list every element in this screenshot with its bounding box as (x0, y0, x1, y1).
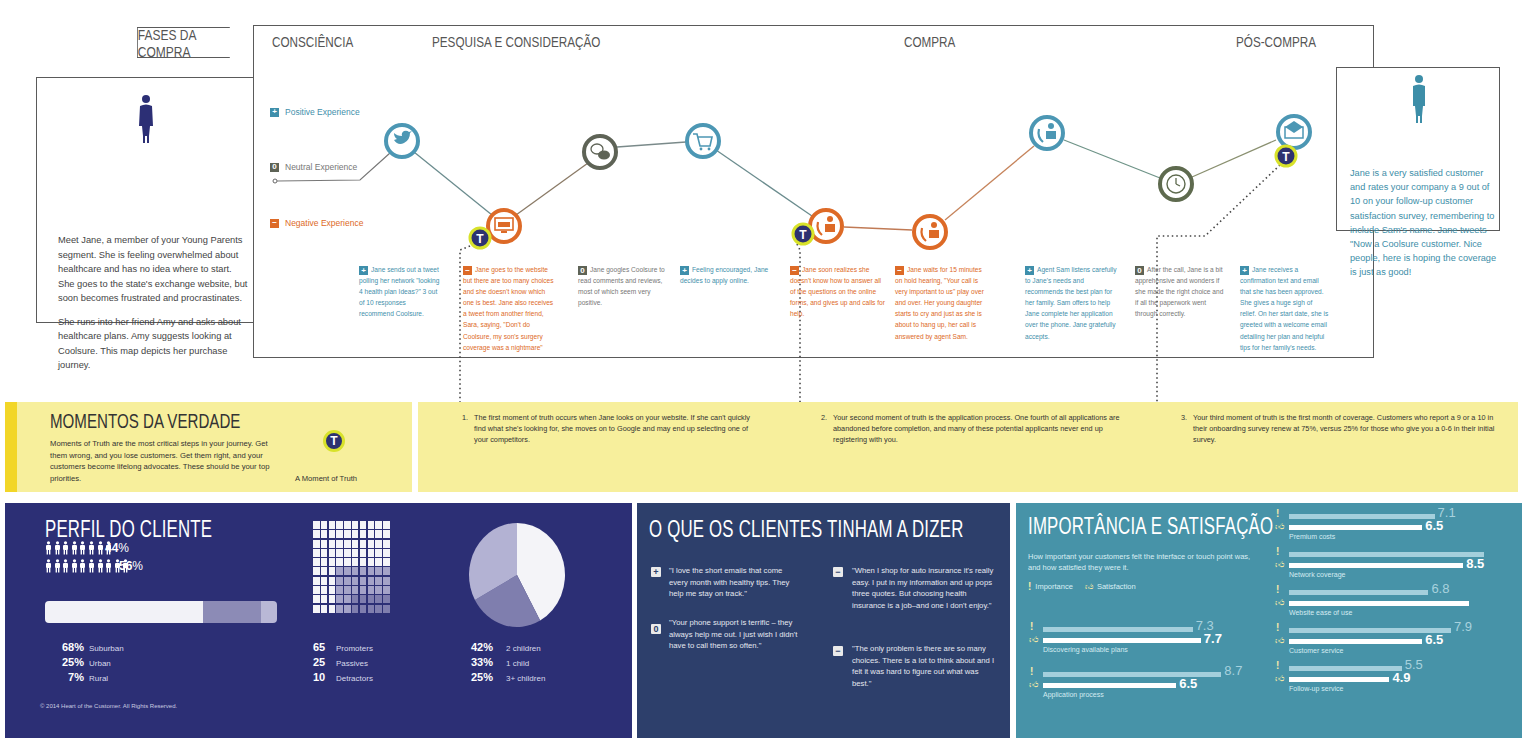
waffle-cell (360, 605, 367, 613)
waffle-cell (383, 586, 390, 594)
waffle-cell (321, 595, 328, 603)
metric-label: Application process (1043, 691, 1104, 698)
customer-quotes-panel: O QUE OS CLIENTES TINHAM A DIZER + "I lo… (637, 503, 1010, 738)
bar-suburban (45, 601, 203, 623)
waffle-cell (375, 595, 382, 603)
waffle-cell (368, 558, 375, 566)
importance-satisfaction-panel: IMPORTÂNCIA E SATISFAÇÃO (1016, 503, 1522, 738)
metric-label: Premium costs (1289, 533, 1335, 540)
waffle-cell (344, 605, 351, 613)
quote-neutral: "Your phone support is terrific – they a… (669, 617, 802, 652)
waffle-cell (344, 558, 351, 566)
waffle-cell (344, 530, 351, 538)
waffle-cell (352, 540, 359, 548)
waffle-cell (383, 540, 390, 548)
person-icon (88, 541, 95, 555)
waffle-cell (383, 595, 390, 603)
quote-negative-1: "When I shop for auto insurance it's rea… (852, 565, 997, 611)
journey-step-1: +Jane sends out a tweet polling her netw… (359, 264, 442, 319)
profile-title: PERFIL DO CLIENTE (45, 515, 212, 543)
waffle-cell (329, 567, 336, 575)
waffle-cell (344, 595, 351, 603)
satisfaction-bar (1289, 639, 1422, 644)
waffle-cell (329, 540, 336, 548)
person-icon (54, 541, 61, 555)
waffle-cell (321, 521, 328, 529)
plus-icon: + (680, 266, 689, 275)
waffle-cell (352, 521, 359, 529)
waffle-cell (329, 521, 336, 529)
nps-waffle-chart (313, 521, 390, 613)
gender-stat-56: 56% (119, 559, 143, 573)
nps-stats: 65Promoters 25Passives 10Detractors (313, 641, 373, 686)
importance-legend: ! Importance 👍︎ Satisfaction (1028, 581, 1136, 592)
touchpoint-call-help (810, 210, 842, 242)
moment-of-truth-item: 2.Your second moment of truth is the app… (821, 412, 1121, 446)
waffle-cell (321, 567, 328, 575)
importance-title: IMPORTÂNCIA E SATISFAÇÃO (1028, 512, 1273, 540)
waffle-cell (313, 558, 320, 566)
waffle-cell (329, 549, 336, 557)
importance-bar (1289, 590, 1428, 595)
waffle-cell (321, 558, 328, 566)
importance-bar (1289, 552, 1484, 557)
waffle-cell (352, 558, 359, 566)
metric-label: Website ease of use (1289, 609, 1352, 616)
moment-of-truth-badge-2: T (793, 224, 813, 244)
waffle-cell (329, 558, 336, 566)
waffle-cell (344, 540, 351, 548)
waffle-cell (336, 530, 343, 538)
location-stats: 68%Suburban 25%Urban 7%Rural (50, 641, 124, 686)
exclamation-icon: ! (1028, 581, 1031, 592)
waffle-cell (329, 605, 336, 613)
plus-icon: + (359, 266, 368, 275)
satisfaction-value: 7.7 (1204, 631, 1222, 646)
moments-of-truth-list: 1.The first moment of truth occurs when … (418, 402, 1518, 492)
children-pie-chart (463, 521, 571, 629)
journey-step-4: +Feeling encouraged, Jane decides to app… (680, 264, 772, 286)
person-icon (79, 559, 86, 573)
journey-step-9: +Jane receives a confirmation text and e… (1240, 264, 1330, 353)
satisfaction-bar (1289, 677, 1389, 682)
copyright: © 2014 Heart of the Customer. All Rights… (40, 703, 177, 709)
journey-step-7: +Agent Sam listens carefully to Jane's n… (1025, 264, 1123, 342)
moment-of-truth-icon: T (323, 430, 345, 452)
waffle-cell (321, 549, 328, 557)
satisfaction-value: 6.5 (1425, 632, 1443, 647)
thumbs-up-icon: 👍︎ (1085, 582, 1093, 591)
waffle-cell (368, 577, 375, 585)
waffle-cell (360, 567, 367, 575)
people-icons-44 (45, 541, 112, 555)
waffle-cell (336, 540, 343, 548)
metric-label: Network coverage (1289, 571, 1345, 578)
waffle-cell (360, 549, 367, 557)
person-icon (88, 559, 95, 573)
satisfaction-value: 6.5 (1425, 518, 1443, 533)
importance-value: 8.7 (1224, 663, 1242, 678)
waffle-cell (368, 595, 375, 603)
waffle-cell (313, 567, 320, 575)
waffle-cell (360, 586, 367, 594)
moments-of-truth-description: Moments of Truth are the most critical s… (50, 438, 285, 484)
waffle-cell (344, 567, 351, 575)
waffle-cell (383, 549, 390, 557)
metric-label: Follow-up service (1289, 685, 1343, 692)
waffle-cell (321, 605, 328, 613)
svg-text:T: T (1282, 150, 1290, 164)
exclamation-icon: ! (1276, 622, 1279, 633)
waffle-cell (313, 549, 320, 557)
waffle-cell (368, 549, 375, 557)
exclamation-icon: ! (1276, 660, 1279, 671)
person-icon (45, 559, 52, 573)
thumbs-up-icon: 👍︎ (1275, 559, 1284, 569)
moment-of-truth-item: 1.The first moment of truth occurs when … (462, 412, 762, 446)
waffle-cell (375, 605, 382, 613)
thumbs-up-icon: 👍︎ (1275, 597, 1284, 607)
waffle-cell (375, 558, 382, 566)
touchpoint-agent (1031, 117, 1063, 149)
waffle-cell (383, 605, 390, 613)
importance-bar (1289, 514, 1435, 519)
satisfaction-value: 6.5 (1179, 676, 1197, 691)
waffle-cell (336, 521, 343, 529)
satisfaction-bar (1289, 563, 1463, 568)
